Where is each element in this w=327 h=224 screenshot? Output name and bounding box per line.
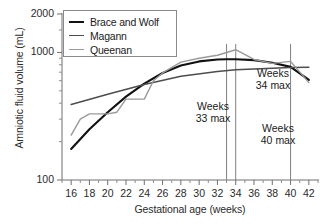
legend-item-queenan: Queenan (69, 43, 171, 56)
legend-item-magann: Magann (69, 29, 171, 42)
annotation-weeks-34-max: Weeks34 max (256, 67, 290, 91)
chart-figure: Amniotic fluid volume (mL) Gestational a… (0, 0, 327, 224)
annotation-weeks-40-max: Weeks40 max (261, 122, 295, 146)
annotation-line-1: Weeks (196, 100, 230, 112)
annotation-line-2: 40 max (261, 134, 295, 146)
y-tick-label: 1000 (10, 45, 54, 57)
x-tick-label: 42 (298, 187, 320, 199)
annotation-line-2: 33 max (196, 112, 230, 124)
y-tick-label: 100 (10, 173, 54, 185)
annotation-weeks-33-max: Weeks33 max (196, 100, 230, 124)
y-tick-label: 2000 (10, 7, 54, 19)
legend-item-brace-and-wolf: Brace and Wolf (69, 15, 171, 28)
legend-swatch-line-icon (69, 21, 84, 23)
chart-legend: Brace and Wolf Magann Queenan (63, 10, 177, 57)
legend-label: Magann (90, 30, 127, 42)
legend-swatch-line-icon (69, 49, 84, 50)
legend-swatch-line-icon (69, 35, 84, 36)
annotation-line-1: Weeks (256, 67, 290, 79)
legend-label: Queenan (90, 44, 132, 56)
annotation-line-2: 34 max (256, 79, 290, 91)
annotation-line-1: Weeks (261, 122, 295, 134)
legend-label: Brace and Wolf (90, 16, 159, 28)
